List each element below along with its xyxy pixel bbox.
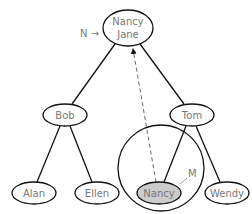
node-tom-label: Tom [181, 110, 202, 121]
edge-tom-nancy [164, 126, 186, 182]
edge-root-tom [140, 44, 184, 104]
pointer-n-label: N → [80, 28, 99, 39]
edge-bob-ellen [70, 126, 92, 182]
node-alan: Alan [12, 182, 56, 204]
node-wendy: Wendy [205, 182, 249, 204]
node-root-label-1: Nancy [112, 16, 143, 27]
node-nancy: Nancy [137, 182, 181, 204]
node-ellen: Ellen [75, 182, 119, 204]
node-root-label-2: Jane [116, 29, 139, 40]
edge-tom-wendy [196, 126, 220, 182]
edge-root-bob [72, 44, 115, 104]
edge-bob-alan [37, 126, 60, 182]
dashed-arrow [133, 49, 156, 182]
pointer-m-label: M [188, 168, 197, 179]
node-tom: Tom [170, 104, 214, 126]
node-ellen-label: Ellen [85, 188, 109, 199]
pointer-m-arrow [180, 178, 187, 184]
node-nancy-label: Nancy [143, 188, 174, 199]
node-bob: Bob [43, 104, 87, 126]
node-root: Nancy Jane [103, 10, 153, 46]
node-alan-label: Alan [23, 188, 45, 199]
node-bob-label: Bob [55, 110, 74, 121]
node-wendy-label: Wendy [210, 188, 244, 199]
binary-tree-diagram: Nancy Jane N → Bob Tom Alan Ellen Nancy … [0, 0, 252, 214]
